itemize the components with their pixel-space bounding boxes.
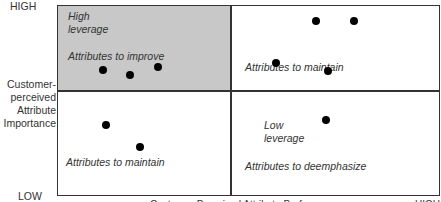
horizontal-divider — [58, 90, 439, 92]
vertical-divider — [230, 6, 232, 195]
quadrant-action-deemphasize: Attributes to deemphasize — [245, 160, 366, 173]
title-line: Low — [264, 119, 304, 132]
data-point — [322, 116, 330, 124]
quadrant-action-improve: Attributes to improve — [68, 50, 164, 63]
quadrant-title-low-leverage: Low leverage — [264, 119, 304, 145]
data-point — [312, 17, 320, 25]
data-point — [324, 67, 332, 75]
y-axis-title: Customer- perceived Attribute Importance — [3, 78, 56, 130]
y-axis-title-line: Importance — [3, 117, 56, 130]
x-axis-title: Customer-Perceived Attribute Performance — [150, 198, 341, 202]
title-line: High — [68, 10, 108, 23]
x-axis-high-label: HIGH — [415, 198, 440, 202]
data-point — [272, 59, 280, 67]
quadrant-title-high-leverage: High leverage — [68, 10, 108, 36]
quadrant-grid: High leverage Attributes to improve Attr… — [57, 5, 440, 196]
y-axis-title-line: perceived — [3, 91, 56, 104]
title-line: leverage — [264, 132, 304, 145]
y-axis-high-label: HIGH — [10, 0, 36, 13]
data-point — [136, 143, 144, 151]
quadrant-action-maintain-bottom: Attributes to maintain — [66, 156, 165, 169]
data-point — [102, 121, 110, 129]
data-point — [99, 66, 107, 74]
y-axis-low-label: LOW — [18, 190, 42, 202]
y-axis-title-line: Customer- — [3, 78, 56, 91]
y-axis-title-line: Attribute — [3, 104, 56, 117]
data-point — [126, 71, 134, 79]
data-point — [154, 63, 162, 71]
title-line: leverage — [68, 23, 108, 36]
data-point — [350, 17, 358, 25]
